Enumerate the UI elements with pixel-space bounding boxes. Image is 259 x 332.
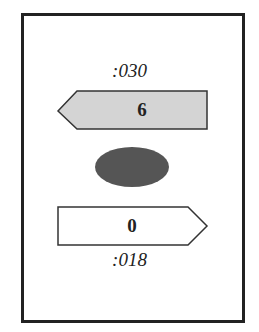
- bottom-arrow-value: 0: [58, 215, 206, 237]
- diagram-shapes: [0, 0, 259, 332]
- bottom-label: :018: [0, 249, 259, 271]
- top-label: :030: [0, 60, 259, 82]
- center-ellipse: [95, 147, 169, 187]
- top-arrow-value: 6: [77, 99, 207, 121]
